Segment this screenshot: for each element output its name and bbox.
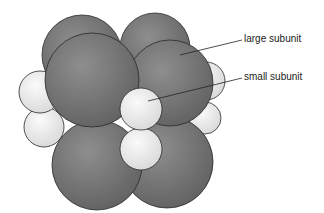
large-subunit-label: large subunit — [244, 33, 301, 44]
protein-subunit-diagram — [0, 0, 324, 213]
small-subunit-label: small subunit — [244, 71, 302, 82]
small-subunit-sphere — [120, 88, 162, 130]
small-subunit-sphere — [120, 128, 162, 170]
